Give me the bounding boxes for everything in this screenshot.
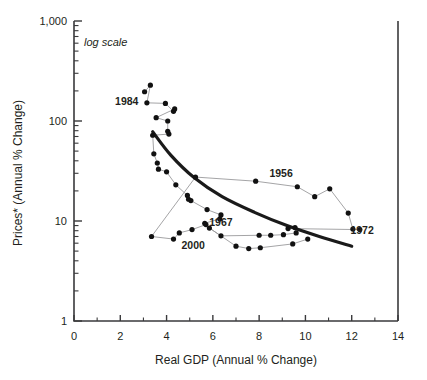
data-point (166, 131, 171, 136)
data-point (172, 106, 177, 111)
x-axis-tick-labels: 02468101214 (71, 330, 404, 342)
data-point (285, 226, 290, 231)
data-point (295, 184, 300, 189)
data-point (257, 233, 262, 238)
y-tick-label: 1 (61, 315, 67, 327)
y-axis-tick-labels: 1101001,000 (39, 15, 67, 327)
data-point (193, 174, 198, 179)
data-point (150, 133, 155, 138)
data-point (258, 245, 263, 250)
data-point (218, 233, 223, 238)
data-points (142, 83, 362, 252)
axes (74, 21, 398, 321)
data-point (155, 160, 160, 165)
data-point (246, 246, 251, 251)
data-point (189, 227, 194, 232)
data-point (327, 186, 332, 191)
y-tick-label: 100 (49, 115, 67, 127)
data-point (156, 167, 161, 172)
data-point (164, 169, 169, 174)
data-point (253, 179, 258, 184)
x-tick-label: 14 (392, 330, 404, 342)
x-tick-label: 4 (164, 330, 170, 342)
y-tick-label: 10 (55, 215, 67, 227)
x-tick-label: 10 (299, 330, 311, 342)
data-point (151, 151, 156, 156)
y-axis-title: Prices* (Annual % Change) (11, 100, 25, 246)
axis-ticks (74, 21, 398, 321)
year-annotation-1984: 1984 (115, 95, 139, 107)
data-point (154, 115, 159, 120)
data-point (281, 232, 286, 237)
x-tick-label: 12 (346, 330, 358, 342)
data-point (268, 233, 273, 238)
log-scale-note: log scale (84, 36, 127, 48)
x-tick-label: 2 (117, 330, 123, 342)
chart-container: 1101001,000 02468101214 1984195619671972… (0, 0, 427, 380)
data-point (171, 236, 176, 241)
x-tick-label: 0 (71, 330, 77, 342)
year-annotation-1967: 1967 (209, 216, 233, 228)
x-tick-label: 8 (256, 330, 262, 342)
x-axis-title: Real GDP (Annual % Change) (155, 353, 317, 367)
data-point (163, 101, 168, 106)
year-annotation-1956: 1956 (269, 167, 293, 179)
data-point (144, 100, 149, 105)
data-point (173, 182, 178, 187)
x-tick-label: 6 (210, 330, 216, 342)
data-point (142, 89, 147, 94)
data-point (177, 230, 182, 235)
year-annotation-2000: 2000 (182, 239, 206, 251)
data-point (346, 210, 351, 215)
y-tick-label: 1,000 (39, 15, 67, 27)
data-point (305, 236, 310, 241)
data-point (312, 194, 317, 199)
data-point (294, 230, 299, 235)
data-point (290, 241, 295, 246)
scatter-chart: 1101001,000 02468101214 1984195619671972… (0, 0, 427, 380)
data-point (148, 83, 153, 88)
data-point (204, 207, 209, 212)
data-point (149, 234, 154, 239)
data-point (233, 244, 238, 249)
data-point (165, 118, 170, 123)
data-point (292, 225, 297, 230)
year-annotation-1972: 1972 (350, 224, 374, 236)
data-point (188, 198, 193, 203)
